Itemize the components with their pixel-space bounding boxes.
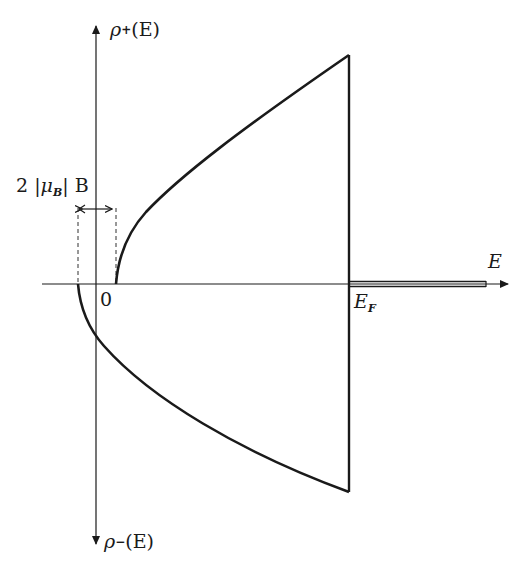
- rho-minus-label: ρ−(E): [104, 530, 154, 552]
- splitting-label: 2 |μB| B: [16, 174, 89, 196]
- fermi-energy-label: EF: [354, 290, 376, 312]
- rho-plus-curve: [116, 55, 349, 284]
- origin-label: 0: [100, 288, 112, 310]
- dos-diagram: [0, 0, 519, 562]
- energy-axis-label: E: [488, 250, 502, 272]
- rho-plus-label: ρ+(E): [110, 18, 160, 40]
- rho-minus-curve: [78, 284, 349, 492]
